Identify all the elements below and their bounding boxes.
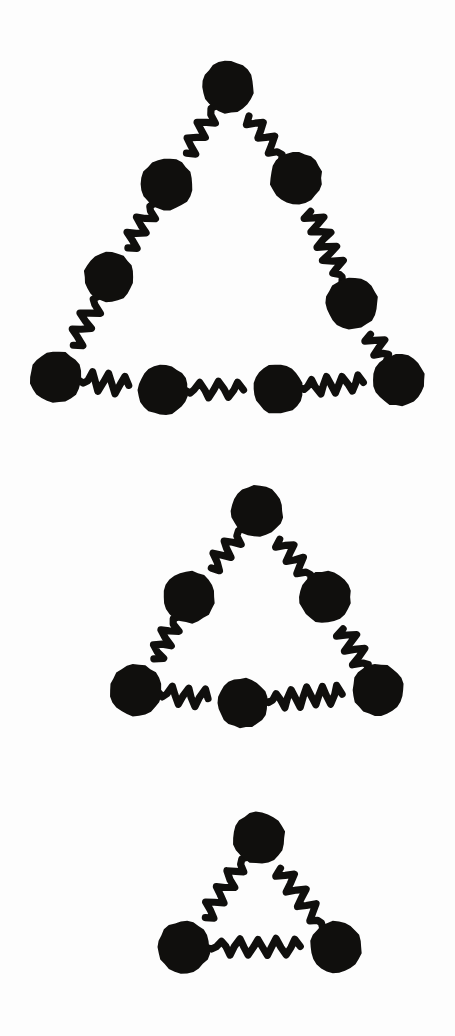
node-circle (158, 921, 211, 974)
wavy-link-icon (159, 686, 208, 706)
wavy-link-icon (207, 938, 300, 955)
node-circle (373, 354, 425, 406)
node-group-assembly-medium (110, 485, 404, 728)
node-link-diagram (0, 0, 455, 1036)
link-layer (72, 106, 388, 955)
figure-canvas (0, 0, 455, 1036)
wavy-link-icon (127, 203, 155, 248)
node-circle (30, 352, 81, 403)
node-circle (164, 571, 215, 624)
wavy-link-icon (211, 529, 243, 571)
wavy-link-icon (365, 334, 389, 361)
wavy-link-icon (276, 868, 323, 927)
wavy-link-icon (337, 629, 369, 671)
node-circle (233, 812, 285, 864)
node-circle (270, 152, 322, 205)
wavy-link-icon (72, 296, 100, 345)
node-circle (254, 365, 303, 414)
link-group-assembly-small (205, 858, 322, 956)
wavy-link-icon (185, 381, 244, 398)
wavy-link-icon (186, 106, 215, 154)
node-group-assembly-large (30, 61, 425, 415)
node-circle (84, 252, 133, 302)
wavy-link-icon (78, 372, 128, 394)
node-circle (138, 365, 188, 415)
link-group-assembly-large (72, 106, 388, 398)
node-circle (110, 664, 161, 717)
node-circle (218, 678, 268, 729)
wavy-link-icon (299, 375, 363, 394)
node-circle (141, 159, 193, 211)
wavy-link-icon (205, 858, 246, 919)
node-group-assembly-small (158, 812, 362, 974)
wavy-link-icon (304, 211, 343, 282)
node-circle (353, 664, 404, 716)
node-layer (30, 61, 425, 974)
wavy-link-icon (153, 617, 179, 659)
node-circle (310, 921, 361, 974)
node-circle (325, 278, 377, 330)
wavy-link-icon (265, 685, 342, 708)
node-circle (299, 571, 351, 623)
wavy-link-icon (246, 116, 282, 160)
wavy-link-icon (276, 539, 311, 579)
